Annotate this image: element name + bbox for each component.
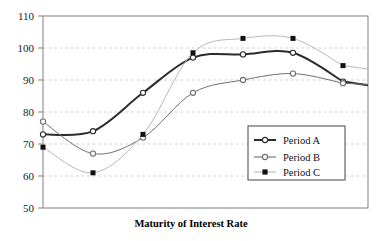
data-point-period-a-1 [90, 129, 95, 134]
data-point-period-c-1 [91, 170, 96, 175]
ytick-label-60: 60 [23, 170, 35, 182]
data-point-period-a-2 [140, 90, 145, 95]
data-point-period-c-3 [191, 50, 196, 55]
ytick-label-70: 70 [23, 138, 35, 150]
data-point-period-b-1 [90, 151, 95, 156]
data-point-period-b-4 [240, 77, 245, 82]
legend-label-period-a: Period A [283, 135, 320, 146]
data-point-period-b-5 [290, 71, 295, 76]
x-axis-title: Maturity of Interest Rate [134, 218, 248, 229]
data-point-period-b-3 [190, 90, 195, 95]
chart-container: 110 100 90 80 70 60 50 Period A Period B [0, 0, 382, 241]
data-point-period-a-3 [190, 55, 195, 60]
ytick-label-90: 90 [23, 74, 35, 86]
data-point-period-c-2 [141, 132, 146, 137]
legend-marker-period-c [262, 169, 267, 174]
data-point-period-b-6 [340, 81, 345, 86]
legend-label-period-b: Period B [283, 152, 320, 163]
line-chart: 110 100 90 80 70 60 50 Period A Period B [0, 0, 382, 241]
legend-marker-period-a [262, 137, 267, 142]
data-point-period-b-0 [40, 119, 45, 124]
legend-marker-period-b [262, 154, 267, 159]
data-point-period-c-0 [41, 145, 46, 150]
ytick-label-110: 110 [18, 10, 35, 22]
ytick-label-50: 50 [23, 202, 35, 214]
legend[interactable]: Period A Period B Period C [248, 126, 345, 180]
ytick-label-100: 100 [18, 42, 35, 54]
data-point-period-c-4 [241, 36, 246, 41]
data-point-period-a-0 [40, 132, 45, 137]
data-point-period-a-4 [240, 52, 245, 57]
ytick-label-80: 80 [23, 106, 35, 118]
y-axis-ticks [38, 16, 43, 208]
data-point-period-c-6 [341, 63, 346, 68]
legend-label-period-c: Period C [283, 167, 320, 178]
data-point-period-c-5 [291, 36, 296, 41]
data-point-period-a-5 [290, 50, 295, 55]
